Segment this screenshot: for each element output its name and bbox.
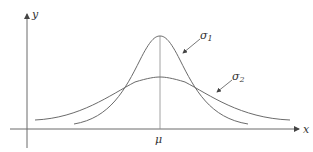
- sigma2-label: σ2: [232, 70, 245, 84]
- curve-sigma2: [35, 77, 290, 120]
- x-axis-label: x: [303, 123, 310, 136]
- normal-distribution-diagram: y x μ σ1 σ2: [0, 0, 313, 152]
- curve-sigma1: [74, 36, 248, 124]
- sigma1-pointer: [183, 39, 200, 53]
- sigma1-label: σ1: [200, 29, 213, 43]
- mean-label: μ: [155, 133, 162, 146]
- sigma2-pointer: [217, 80, 232, 92]
- y-axis-label: y: [31, 8, 39, 21]
